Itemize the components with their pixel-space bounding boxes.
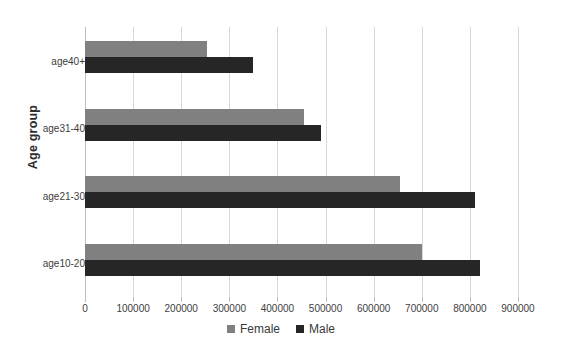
x-axis-tick-label: 600000	[357, 303, 390, 314]
bar-male-age31-40	[85, 125, 321, 141]
x-axis-tick	[374, 297, 375, 302]
bar-male-age10-20	[85, 260, 480, 276]
x-axis-tick-label: 900000	[501, 303, 534, 314]
legend-label: Female	[240, 322, 280, 336]
category-row	[85, 162, 518, 230]
category-label-age21-30: age21-30	[0, 190, 85, 201]
bar-chart: Age group FemaleMale 0100000200000300000…	[0, 0, 562, 353]
legend-swatch-icon	[296, 325, 304, 333]
x-axis-tick-label: 300000	[213, 303, 246, 314]
x-axis-tick-label: 500000	[309, 303, 342, 314]
gridline	[518, 27, 519, 297]
y-axis-title: Age group	[26, 82, 40, 192]
bar-male-age40+	[85, 57, 253, 73]
category-row	[85, 95, 518, 163]
x-axis-tick	[85, 297, 86, 302]
x-axis-tick-label: 100000	[116, 303, 149, 314]
chart-legend: FemaleMale	[0, 322, 562, 336]
plot-area	[85, 27, 518, 297]
x-axis-tick-label: 200000	[165, 303, 198, 314]
category-row	[85, 230, 518, 298]
category-row	[85, 27, 518, 95]
bar-female-age40+	[85, 41, 207, 57]
bar-female-age10-20	[85, 244, 422, 260]
bar-female-age21-30	[85, 176, 400, 192]
category-label-age40+: age40+	[0, 55, 85, 66]
legend-item-male[interactable]: Male	[296, 322, 335, 336]
x-axis-tick	[470, 297, 471, 302]
x-axis-tick-label: 400000	[261, 303, 294, 314]
x-axis-tick	[326, 297, 327, 302]
legend-item-female[interactable]: Female	[227, 322, 280, 336]
bar-male-age21-30	[85, 192, 475, 208]
x-axis-tick	[277, 297, 278, 302]
legend-label: Male	[309, 322, 335, 336]
x-axis-tick	[181, 297, 182, 302]
bar-female-age31-40	[85, 109, 304, 125]
category-label-age10-20: age10-20	[0, 258, 85, 269]
x-axis-tick-label: 800000	[453, 303, 486, 314]
x-axis-tick	[133, 297, 134, 302]
x-axis-tick	[518, 297, 519, 302]
x-axis-tick	[229, 297, 230, 302]
x-axis-tick	[422, 297, 423, 302]
category-label-age31-40: age31-40	[0, 123, 85, 134]
legend-swatch-icon	[227, 325, 235, 333]
x-axis-tick-label: 700000	[405, 303, 438, 314]
x-axis-tick-label: 0	[82, 303, 88, 314]
